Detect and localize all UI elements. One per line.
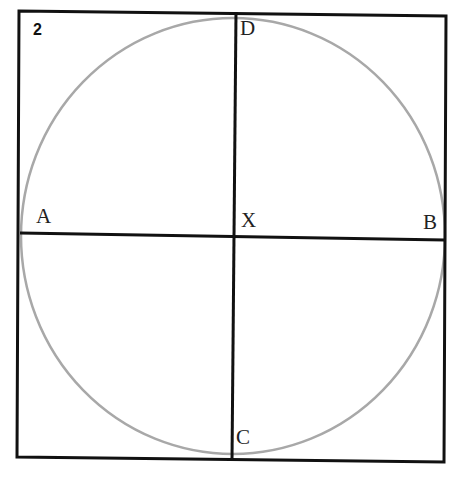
point-label-a: A	[36, 206, 51, 227]
figure-number: 2	[33, 22, 42, 38]
diagram-figure	[0, 0, 466, 479]
point-label-x: X	[241, 210, 256, 231]
point-label-c: C	[236, 427, 250, 448]
point-label-b: B	[423, 212, 437, 233]
point-label-d: D	[240, 18, 255, 39]
diameter-cd	[232, 12, 236, 460]
